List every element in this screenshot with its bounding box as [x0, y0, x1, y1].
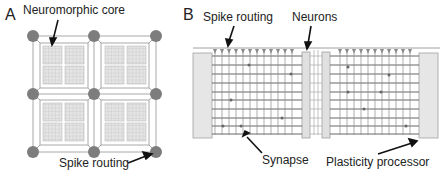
- plasticity-processor-label: Plasticity processor: [326, 155, 429, 169]
- diagram-canvas: [0, 0, 442, 178]
- panel-b-crossbar: [193, 26, 440, 154]
- spike-routing-label-b: Spike routing: [203, 10, 273, 24]
- neuron-column-right: [322, 52, 330, 138]
- panel-a-letter: A: [5, 6, 16, 24]
- synapse-label: Synapse: [262, 153, 309, 167]
- neuron-column-left: [302, 52, 310, 138]
- panel-b-letter: B: [183, 6, 194, 24]
- neuromorphic-core-label: Neuromorphic core: [23, 3, 125, 17]
- left-plasticity-block: [193, 53, 212, 138]
- neurons-label: Neurons: [292, 10, 337, 24]
- panel-a-network: [27, 20, 162, 163]
- right-plasticity-block: [419, 53, 438, 138]
- spike-input-triangles: [213, 49, 412, 54]
- right-crossbar: [330, 56, 419, 134]
- spike-routing-label-a: Spike routing: [59, 156, 129, 170]
